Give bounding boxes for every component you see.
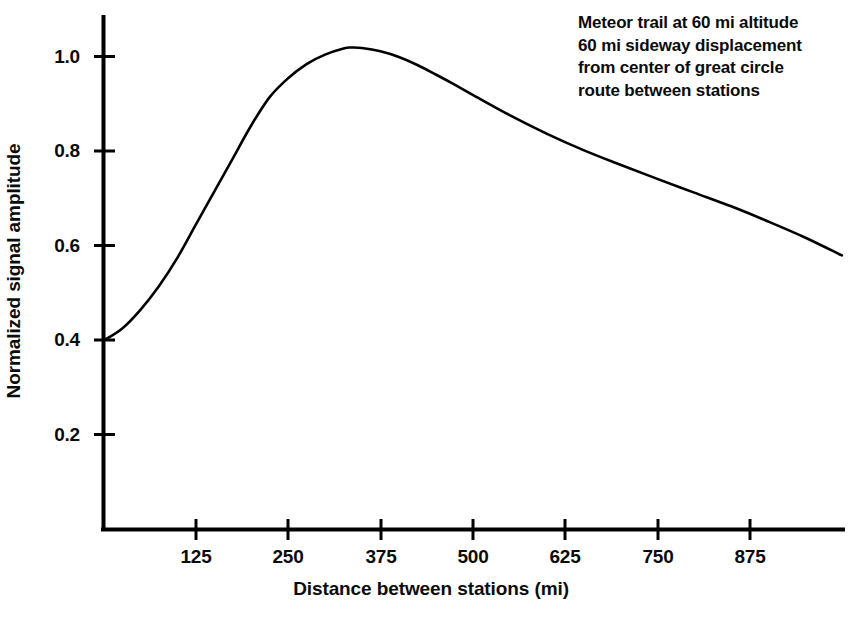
y-tick-label-1_0: 1.0 [18,46,80,68]
x-tick-label-125: 125 [180,546,211,568]
annotation-line-3: from center of great circle [578,57,802,80]
x-axis-title: Distance between stations (mi) [293,578,569,600]
y-tick-label-0_4: 0.4 [18,329,80,351]
x-tick-label-625: 625 [549,546,580,568]
annotation-line-4: route between stations [578,80,802,103]
annotation-line-2: 60 mi sideway displacement [578,35,802,58]
x-tick-label-875: 875 [734,546,765,568]
x-tick-label-750: 750 [642,546,673,568]
y-tick-label-0_6: 0.6 [18,235,80,257]
chart-annotation: Meteor trail at 60 mi altitude 60 mi sid… [578,12,802,102]
x-tick-label-500: 500 [457,546,488,568]
x-tick-label-375: 375 [365,546,396,568]
y-tick-label-0_8: 0.8 [18,140,80,162]
y-tick-label-0_2: 0.2 [18,424,80,446]
annotation-line-1: Meteor trail at 60 mi altitude [578,12,802,35]
y-axis-title: Normalized signal amplitude [3,144,25,399]
chart-figure: 1.0 0.8 0.6 0.4 0.2 125 250 375 500 625 … [0,0,862,619]
x-tick-label-250: 250 [272,546,303,568]
